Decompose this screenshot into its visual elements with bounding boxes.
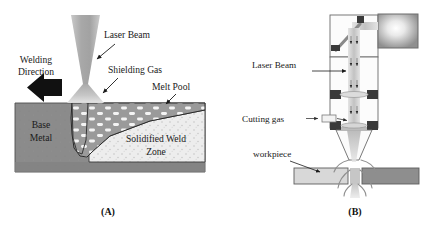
base-metal-bottom-band [15, 162, 205, 172]
figure-container: Welding Direction Laser Beam Shielding G… [0, 0, 433, 236]
laser-process-figure: Welding Direction Laser Beam Shielding G… [0, 0, 433, 236]
laser-beam-label-b: Laser Beam [252, 60, 296, 70]
cutting-gas-label: Cutting gas [242, 114, 285, 124]
shielding-gas-label: Shielding Gas [108, 64, 162, 75]
lens-mount-left [330, 90, 341, 99]
protective-window [341, 123, 367, 128]
laser-source-box [378, 14, 418, 48]
mirror-mount-bottom [331, 45, 340, 51]
workpiece-label: workpiece [253, 149, 291, 159]
cutting-gas-inlet [322, 115, 336, 122]
laser-beam-label: Laser Beam [104, 29, 151, 40]
panel-b-caption: (B) [348, 206, 361, 218]
lens-mount-right [367, 90, 378, 99]
welding-direction-label-line1: Welding [20, 54, 52, 65]
nozzle-mount-right [367, 121, 378, 130]
base-metal-label-line1: Base [32, 119, 51, 130]
kerf-channel [350, 168, 360, 184]
melt-pool-label: Melt Pool [152, 81, 190, 92]
base-metal-label-line2: Metal [30, 132, 53, 143]
solidified-weld-zone-label-line1: Solidified Weld [126, 133, 186, 144]
welding-direction-label-line2: Direction [18, 66, 54, 77]
panel-a-caption: (A) [101, 206, 115, 218]
mirror-mount-top [357, 16, 364, 23]
solidified-weld-zone-label-line2: Zone [146, 146, 166, 157]
focusing-lens [340, 92, 368, 98]
vertical-beam-column [348, 28, 360, 128]
